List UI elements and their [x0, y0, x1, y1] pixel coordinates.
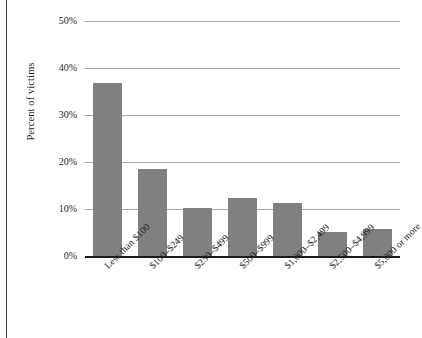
bars-group [85, 21, 400, 256]
y-axis-tick-label: 10% [37, 203, 77, 214]
y-axis-tick-label: 50% [37, 15, 77, 26]
y-axis-tick-label: 40% [37, 62, 77, 73]
page-margin-rule [6, 0, 7, 338]
y-axis-tick-label: 0% [37, 250, 77, 261]
bar [138, 169, 167, 256]
y-axis-tick-label: 30% [37, 109, 77, 120]
bar [93, 83, 122, 256]
y-axis-tick-label: 20% [37, 156, 77, 167]
y-axis-title: Percent of victims [25, 47, 36, 157]
